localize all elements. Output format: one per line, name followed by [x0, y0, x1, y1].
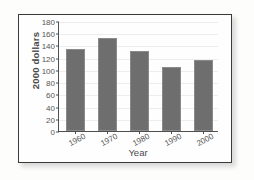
chart-figure-frame: 2000 dollars 020406080100120140160180 19… — [18, 14, 232, 163]
x-axis-title: Year — [58, 147, 218, 158]
bar-slot — [123, 22, 155, 131]
plot-area: 020406080100120140160180 196019701980199… — [58, 22, 218, 132]
y-axis-tick-label: 120 — [42, 54, 55, 63]
bar-slot — [91, 22, 123, 131]
y-axis-tick-label: 80 — [46, 79, 55, 88]
y-axis-tick-label: 160 — [42, 30, 55, 39]
bar-slot — [155, 22, 187, 131]
y-axis-tick-label: 20 — [46, 115, 55, 124]
x-axis-tick-mark — [107, 131, 108, 134]
y-axis-tick-label: 0 — [51, 128, 55, 137]
bar — [98, 38, 117, 131]
y-axis-tick-label: 100 — [42, 66, 55, 75]
y-axis-tick-label: 60 — [46, 91, 55, 100]
plot-wrapper: 2000 dollars 020406080100120140160180 19… — [19, 15, 231, 162]
bar-slot — [187, 22, 219, 131]
y-axis-tick-label: 180 — [42, 18, 55, 27]
x-axis-tick-label: 1980 — [131, 132, 151, 148]
x-axis-tick-label: 1970 — [99, 132, 119, 148]
bar — [162, 67, 181, 131]
bar-slot — [59, 22, 91, 131]
x-axis-tick-label: 1990 — [163, 132, 183, 148]
x-axis-tick-label: 1960 — [67, 132, 87, 148]
x-axis-tick-mark — [139, 131, 140, 134]
x-axis-tick-mark — [171, 131, 172, 134]
screenshot-root: 2000 dollars 020406080100120140160180 19… — [0, 0, 254, 180]
y-axis-tick-label: 140 — [42, 42, 55, 51]
x-axis-tick-mark — [75, 131, 76, 134]
x-axis-tick-label: 2000 — [195, 132, 215, 148]
x-axis-tick-mark — [203, 131, 204, 134]
bar — [194, 60, 213, 131]
y-axis-tick-label: 40 — [46, 103, 55, 112]
bar — [130, 51, 149, 131]
y-axis-title: 2000 dollars — [30, 15, 41, 107]
bar — [66, 49, 85, 131]
bars-group — [59, 22, 218, 131]
y-axis-tick-mark — [56, 132, 59, 133]
